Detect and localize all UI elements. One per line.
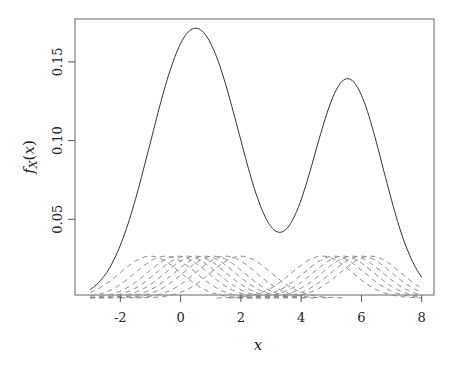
x-tick-label: 4	[297, 310, 305, 325]
kernel-curve	[217, 256, 422, 298]
density-plot: -202468 0.050.100.15 x fX(x)	[0, 0, 452, 372]
kernel-curve	[238, 256, 422, 298]
x-tick-label: 6	[357, 310, 365, 325]
y-tick-label: 0.10	[50, 126, 65, 155]
x-axis-title: x	[254, 336, 263, 354]
y-axis-title: fX(x)	[20, 140, 40, 175]
kernel-curve	[108, 256, 319, 298]
x-tick-label: 2	[237, 310, 245, 325]
x-tick-label: -2	[114, 310, 127, 325]
y-tick-label: 0.15	[50, 47, 65, 76]
y-axis: 0.050.100.15	[50, 47, 75, 233]
x-axis: -202468	[114, 295, 426, 325]
density-curve	[90, 28, 422, 289]
y-tick-label: 0.05	[50, 205, 65, 234]
x-tick-label: 0	[176, 310, 184, 325]
kernel-curve	[90, 256, 283, 298]
kernel-curve	[90, 256, 301, 298]
kernel-curves	[90, 256, 422, 298]
x-tick-label: 8	[418, 310, 426, 325]
kernel-curve	[265, 256, 422, 298]
